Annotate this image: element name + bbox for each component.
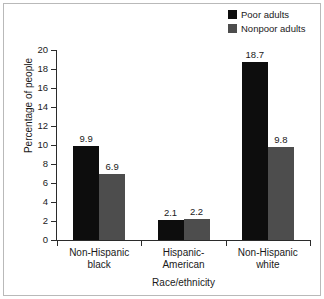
plot-area: 9.96.92.12.218.79.8 <box>57 50 310 240</box>
y-axis-tick-label: 4 <box>22 197 48 207</box>
x-axis-tick <box>226 241 227 246</box>
x-axis-line <box>56 240 311 241</box>
y-axis-tick-label: 6 <box>22 178 48 188</box>
x-axis-tick <box>310 241 311 246</box>
y-axis-tick-label: 16 <box>22 83 48 93</box>
chart-figure: Poor adults Nonpoor adults Percentage of… <box>0 0 324 299</box>
bar-poor-adults[interactable] <box>73 146 99 240</box>
bar-nonpoor-adults[interactable] <box>268 147 294 240</box>
bar-poor-adults[interactable] <box>242 62 268 240</box>
legend-swatch-poor-adults <box>228 10 237 19</box>
chart-legend: Poor adults Nonpoor adults <box>228 8 320 36</box>
legend-swatch-nonpoor-adults <box>228 24 237 33</box>
y-axis-tick-label: 8 <box>22 159 48 169</box>
bar-value-label: 2.2 <box>179 207 215 217</box>
bar-value-label: 9.8 <box>263 135 299 145</box>
legend-item-nonpoor-adults: Nonpoor adults <box>228 22 320 34</box>
x-axis-tick <box>57 241 58 246</box>
y-axis-tick-label: 0 <box>22 235 48 245</box>
bar-poor-adults[interactable] <box>158 220 184 240</box>
bar-value-label: 6.9 <box>94 162 130 172</box>
bar-value-label: 9.9 <box>68 134 104 144</box>
legend-label-poor-adults: Poor adults <box>241 9 289 20</box>
legend-label-nonpoor-adults: Nonpoor adults <box>241 23 305 34</box>
category-label-line: white <box>218 259 318 271</box>
y-axis-tick-label: 2 <box>22 216 48 226</box>
x-axis-category-label: Non-Hispanicwhite <box>218 247 318 270</box>
y-axis-tick-label: 14 <box>22 102 48 112</box>
y-axis-tick-label: 10 <box>22 140 48 150</box>
y-axis-tick-label: 20 <box>22 45 48 55</box>
x-axis-title: Race/ethnicity <box>56 277 311 288</box>
category-label-line: Non-Hispanic <box>218 247 318 259</box>
bar-nonpoor-adults[interactable] <box>184 219 210 240</box>
y-axis-tick-label: 12 <box>22 121 48 131</box>
bar-value-label: 18.7 <box>237 50 273 60</box>
y-axis-tick-label: 18 <box>22 64 48 74</box>
legend-item-poor-adults: Poor adults <box>228 8 320 20</box>
x-axis-tick <box>141 241 142 246</box>
bar-nonpoor-adults[interactable] <box>99 174 125 240</box>
